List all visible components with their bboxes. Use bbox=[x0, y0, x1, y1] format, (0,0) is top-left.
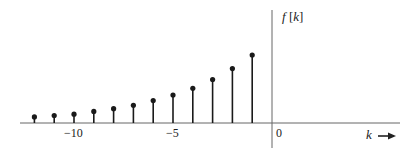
stem-marker bbox=[91, 109, 96, 114]
stem-marker bbox=[32, 114, 37, 119]
stem-marker bbox=[151, 98, 156, 103]
stem-marker bbox=[170, 93, 175, 98]
tick-label-0: 0 bbox=[276, 126, 282, 141]
stem-marker bbox=[230, 66, 235, 71]
stem-marker bbox=[131, 103, 136, 108]
tick-label-minus5: −5 bbox=[166, 126, 179, 141]
stem-marker bbox=[250, 52, 255, 57]
y-label-bracket-close: ] bbox=[299, 9, 303, 24]
stem-marker bbox=[190, 86, 195, 91]
stems bbox=[32, 52, 255, 123]
stem-marker bbox=[52, 113, 57, 118]
tick-label-minus10: −10 bbox=[64, 126, 83, 141]
y-axis-label: f [k] bbox=[282, 9, 303, 25]
stem-marker bbox=[111, 106, 116, 111]
stem-marker bbox=[71, 112, 76, 117]
stem-marker bbox=[210, 77, 215, 82]
stem-plot bbox=[0, 0, 416, 155]
y-label-f: f bbox=[282, 9, 286, 24]
arrow-right-icon bbox=[378, 133, 396, 140]
x-axis-label: k bbox=[366, 127, 372, 143]
